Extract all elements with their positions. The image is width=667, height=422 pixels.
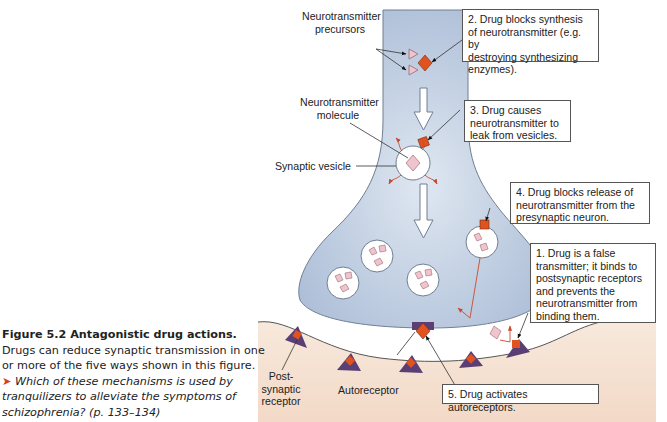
callout-1-false-transmitter: 1. Drug is a false transmitter; it binds… <box>530 243 656 323</box>
callout-line: and prevents the <box>536 285 650 298</box>
free-neurotransmitter <box>490 326 501 339</box>
callout-line: presynaptic neuron. <box>516 211 644 224</box>
callout-2-blocks-synthesis: 2. Drug blocks synthesis of neurotransmi… <box>462 9 599 62</box>
question-arrow-icon: ➤ <box>2 375 11 388</box>
label-precursors-line2: precursors <box>302 23 378 36</box>
callout-line: leak from vesicles. <box>470 129 565 142</box>
callout-line: transmitter; it binds to <box>536 260 650 273</box>
callout-line: 4. Drug blocks release of <box>516 186 644 199</box>
callout-line: 5. Drug activates autoreceptors. <box>448 388 593 413</box>
callout-5-activates-autoreceptors: 5. Drug activates autoreceptors. <box>442 384 599 404</box>
callout-line: binding them. <box>536 310 650 323</box>
label-molecule-line2: molecule <box>300 109 376 122</box>
callout-4-blocks-release: 4. Drug blocks release of neurotransmitt… <box>510 182 650 224</box>
label-precursors-line1: Neurotransmitter <box>302 10 378 23</box>
callout-line: 1. Drug is a false <box>536 247 650 260</box>
repel-arrow-left <box>500 340 510 342</box>
label-molecule-line1: Neurotransmitter <box>300 96 376 109</box>
figure-caption: Figure 5.2 Antagonistic drug actions. Dr… <box>2 327 270 421</box>
label-precursors: Neurotransmitter precursors <box>302 10 378 35</box>
drug-blocks-release-icon <box>480 220 489 229</box>
callout-line: destroying synthesizing <box>468 51 593 64</box>
label-vesicle: Synaptic vesicle <box>275 160 351 173</box>
caption-title: Figure 5.2 Antagonistic drug actions. <box>2 328 237 341</box>
callout-line: of neurotransmitter (e.g. by <box>468 26 593 51</box>
false-transmitter-drug-icon <box>512 340 520 348</box>
caption-question: Which of these mechanisms is used by tra… <box>2 375 236 419</box>
callout-line: enzymes). <box>468 63 593 76</box>
label-autoreceptor: Autoreceptor <box>338 384 399 397</box>
callout-3-causes-leak: 3. Drug causes neurotransmitter to leak … <box>464 100 571 142</box>
callout-line: neurotransmitter from the <box>516 199 644 212</box>
callout-line: 2. Drug blocks synthesis <box>468 13 593 26</box>
callout-line: neurotransmitter from <box>536 297 650 310</box>
callout-line: 3. Drug causes <box>470 104 565 117</box>
callout-line: neurotransmitter to <box>470 117 565 130</box>
caption-body: Drugs can reduce synaptic transmission i… <box>2 344 265 373</box>
callout-line: postsynaptic receptors <box>536 272 650 285</box>
label-molecule: Neurotransmitter molecule <box>300 96 376 121</box>
